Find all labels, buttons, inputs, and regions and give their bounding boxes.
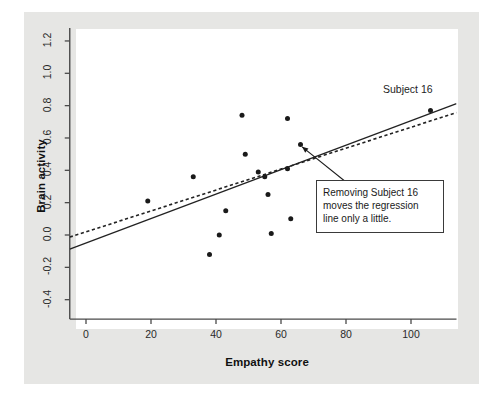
- figure-root: -0.4-0.20.00.20.40.60.81.01.2 0204060801…: [0, 0, 499, 396]
- x-tick-label: 40: [199, 328, 233, 340]
- y-axis-title: Brain activity: [35, 116, 47, 236]
- y-tick-label: 1.2: [41, 25, 53, 55]
- x-tick-label: 20: [134, 328, 168, 340]
- data-point: [240, 113, 245, 118]
- axes-group: [70, 28, 457, 319]
- x-tick-label: 80: [329, 328, 363, 340]
- data-point: [285, 116, 290, 121]
- y-tick-label: -0.2: [41, 251, 53, 281]
- callout-line-2: moves the regression: [323, 199, 437, 212]
- subject-16-label: Subject 16: [383, 83, 433, 95]
- callout-line-1: Removing Subject 16: [323, 186, 437, 199]
- data-point: [285, 166, 290, 171]
- data-point: [269, 231, 274, 236]
- data-point: [207, 252, 212, 257]
- data-point: [266, 192, 271, 197]
- y-tick-label: 1.0: [41, 57, 53, 87]
- data-point: [191, 174, 196, 179]
- x-tick-label: 100: [394, 328, 428, 340]
- data-point: [145, 199, 150, 204]
- x-tick-label: 60: [264, 328, 298, 340]
- data-point: [256, 169, 261, 174]
- x-axis-title: Empathy score: [76, 356, 458, 368]
- callout-note-box: Removing Subject 16 moves the regression…: [316, 180, 444, 233]
- data-point: [217, 233, 222, 238]
- data-point: [262, 174, 267, 179]
- data-point: [243, 152, 248, 157]
- data-point: [223, 208, 228, 213]
- y-tick-label: -0.4: [41, 284, 53, 314]
- data-point: [288, 216, 293, 221]
- callout-line-3: line only a little.: [323, 212, 437, 225]
- x-tick-label: 0: [69, 328, 103, 340]
- data-point: [428, 108, 433, 113]
- data-point: [298, 142, 303, 147]
